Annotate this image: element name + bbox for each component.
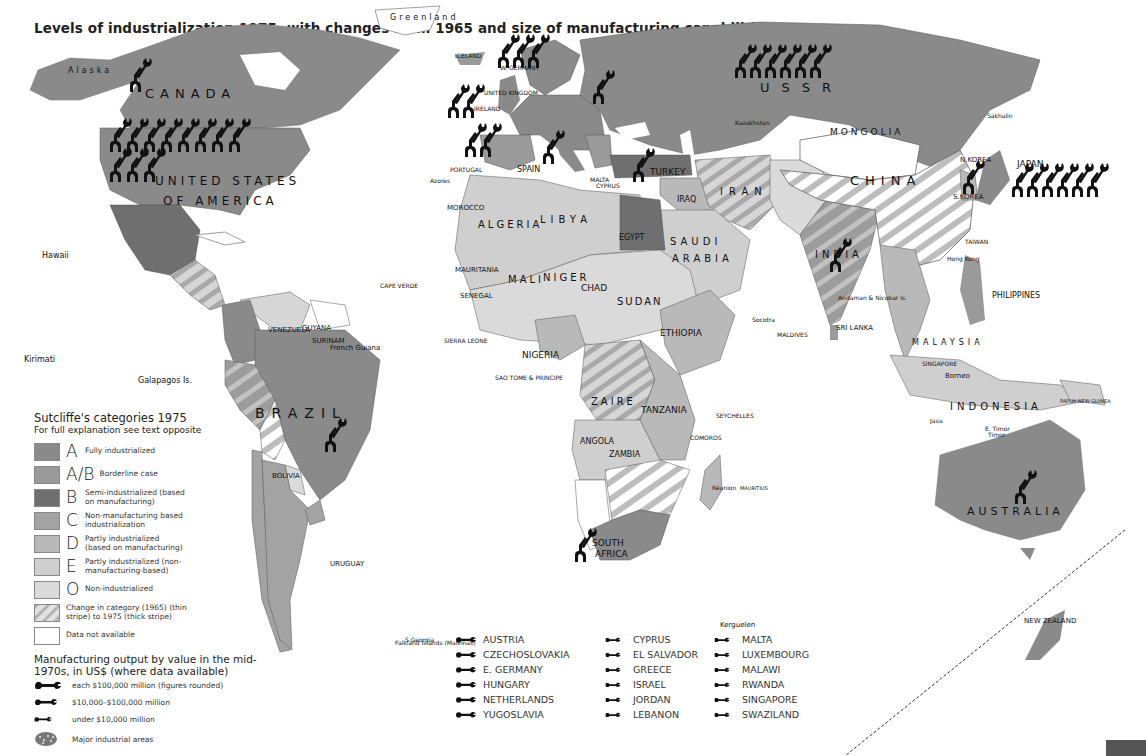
svg-text:Hawaii: Hawaii: [42, 251, 69, 260]
industrial-area-icon: [34, 731, 58, 747]
wrench-small-icon: [714, 712, 730, 718]
list-item: CYPRUS: [605, 632, 698, 647]
wrench-small-icon: [605, 652, 621, 658]
svg-text:MAURITANIA: MAURITANIA: [455, 266, 499, 274]
svg-text:SINGAPORE: SINGAPORE: [922, 360, 957, 367]
cuba: [195, 232, 245, 245]
legend-wrench-small: under $10,000 million: [34, 711, 334, 728]
svg-text:SUDAN: SUDAN: [617, 296, 663, 307]
list-item: LUXEMBOURG: [714, 647, 809, 662]
svg-text:Kazakhstan: Kazakhstan: [735, 119, 770, 126]
svg-text:AFRICA: AFRICA: [595, 549, 629, 559]
svg-text:Azores: Azores: [430, 177, 450, 184]
legend: Sutcliffe's categories 1975 For full exp…: [34, 411, 334, 750]
swatch-E: [34, 558, 60, 576]
svg-text:Kerguelen: Kerguelen: [720, 621, 755, 629]
wrench-medium-icon: [455, 666, 477, 674]
svg-text:TURKEY: TURKEY: [649, 167, 686, 177]
legend-item-C: C Non-manufacturing based industrializat…: [34, 509, 334, 532]
mexico: [110, 205, 200, 275]
svg-text:IRELAND: IRELAND: [474, 105, 501, 112]
svg-text:PAPUA NEW GUINEA: PAPUA NEW GUINEA: [1060, 398, 1111, 404]
page-corner-tab: [1106, 740, 1146, 756]
svg-text:Borneo: Borneo: [945, 372, 970, 380]
legend-item-change: Change in category (1965) (thin stripe) …: [34, 601, 334, 624]
wrench-small-icon: [605, 712, 621, 718]
swatch-AB: [34, 466, 60, 484]
legend-item-A: A Fully industrialized: [34, 440, 334, 463]
wrench-small-icon: [605, 667, 621, 673]
list-item: CZECHOSLOVAKIA: [455, 647, 570, 662]
svg-text:SAO TOME & PRINCIPE: SAO TOME & PRINCIPE: [495, 374, 563, 381]
list-item: NETHERLANDS: [455, 692, 570, 707]
svg-text:Timor: Timor: [987, 431, 1006, 438]
legend-item-E: E Partly industrialized (non-manufacturi…: [34, 555, 334, 578]
svg-text:TANZANIA: TANZANIA: [640, 405, 687, 415]
svg-text:SPAIN: SPAIN: [517, 165, 540, 174]
svg-text:PHILIPPINES: PHILIPPINES: [992, 291, 1040, 300]
svg-text:CHINA: CHINA: [850, 173, 921, 188]
list-item: RWANDA: [714, 677, 809, 692]
svg-text:NIGERIA: NIGERIA: [522, 350, 560, 360]
svg-text:Galapagos Is.: Galapagos Is.: [138, 376, 192, 385]
wrench-small-icon: [34, 716, 52, 723]
svg-text:GUYANA: GUYANA: [302, 324, 331, 332]
wrench-small-icon: [605, 697, 621, 703]
svg-text:NEW ZEALAND: NEW ZEALAND: [1024, 617, 1076, 625]
svg-text:ICELAND: ICELAND: [455, 52, 482, 59]
wrench-list-small-2: MALTA LUXEMBOURG MALAWI RWANDA SINGAPORE…: [714, 632, 809, 722]
svg-text:Réunion: Réunion: [712, 484, 737, 491]
legend-wrench-medium: $10,000–$100,000 million: [34, 694, 334, 711]
swatch-D: [34, 535, 60, 553]
svg-text:OF AMERICA: OF AMERICA: [163, 194, 278, 208]
svg-text:CANADA: CANADA: [145, 86, 236, 101]
svg-text:SENEGAL: SENEGAL: [460, 292, 493, 300]
svg-text:IRAQ: IRAQ: [677, 195, 696, 204]
svg-text:W. GERMANY: W. GERMANY: [500, 64, 539, 71]
svg-text:MOROCCO: MOROCCO: [447, 204, 485, 212]
svg-text:LIBYA: LIBYA: [540, 214, 592, 225]
svg-text:S.Georgia: S.Georgia: [405, 636, 435, 644]
svg-text:MALI: MALI: [508, 274, 544, 285]
legend-heading: Sutcliffe's categories 1975: [34, 411, 334, 425]
wrench-small-icon: [605, 682, 621, 688]
swatch-C: [34, 512, 60, 530]
svg-text:USSR: USSR: [760, 80, 843, 95]
wrench-small-icon: [714, 697, 730, 703]
manufacturing-heading: Manufacturing output by value in the mid…: [34, 653, 274, 677]
tasmania: [1020, 548, 1035, 560]
swatch-A: [34, 443, 60, 461]
svg-text:Kirimati: Kirimati: [24, 355, 55, 364]
wrench-small-icon: [714, 637, 730, 643]
wrench-large-icon: [34, 681, 62, 691]
wrench-small-icon: [714, 682, 730, 688]
wrench-medium-icon: [34, 698, 58, 707]
svg-text:INDIA: INDIA: [815, 249, 863, 260]
list-item: HUNGARY: [455, 677, 570, 692]
wrench-medium-icon: [455, 696, 477, 704]
svg-text:Sakhalin: Sakhalin: [987, 112, 1013, 119]
svg-text:TAIWAN: TAIWAN: [964, 238, 988, 245]
list-item: YUGOSLAVIA: [455, 707, 570, 722]
svg-text:Hong Kong: Hong Kong: [947, 255, 980, 263]
legend-item-O: O Non-industrialized: [34, 578, 334, 601]
svg-text:CHAD: CHAD: [581, 283, 607, 293]
list-item: ISRAEL: [605, 677, 698, 692]
svg-text:CYPRUS: CYPRUS: [596, 182, 620, 189]
svg-text:ALGERIA: ALGERIA: [478, 219, 542, 230]
svg-text:French Guiana: French Guiana: [330, 344, 380, 352]
svg-text:Alaska: Alaska: [68, 66, 112, 75]
wrench-list-medium: AUSTRIA CZECHOSLOVAKIA E. GERMANY HUNGAR…: [455, 632, 570, 722]
legend-wrench-large: each $100,000 million (figures rounded): [34, 677, 334, 694]
svg-text:Andaman & Nicobar Is.: Andaman & Nicobar Is.: [838, 294, 907, 301]
swatch-O: [34, 581, 60, 599]
swatch-na: [34, 627, 60, 645]
wrench-list-small-1: CYPRUS EL SALVADOR GREECE ISRAEL JORDAN …: [605, 632, 698, 722]
list-item: EL SALVADOR: [605, 647, 698, 662]
svg-text:Socotra: Socotra: [752, 316, 775, 323]
svg-text:SOUTH: SOUTH: [592, 538, 624, 548]
svg-text:N.KOREA: N.KOREA: [960, 156, 991, 164]
svg-text:CAPE VERDE: CAPE VERDE: [380, 282, 418, 289]
svg-text:SRI LANKA: SRI LANKA: [836, 324, 873, 332]
list-item: JORDAN: [605, 692, 698, 707]
